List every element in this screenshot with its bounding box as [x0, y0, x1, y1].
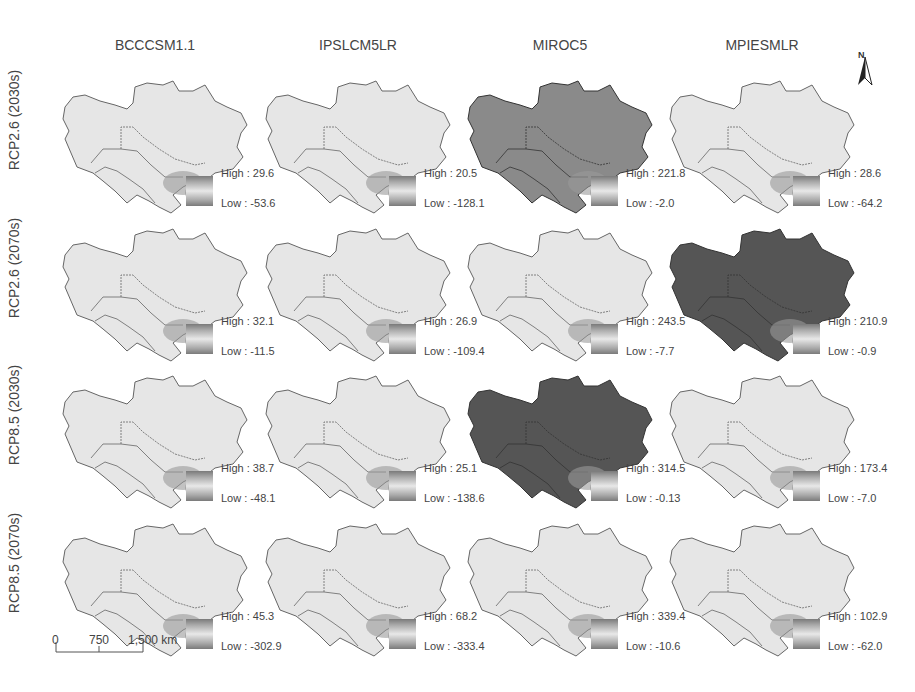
map-panel — [460, 498, 690, 658]
scale-label-750: 750 — [89, 633, 109, 647]
row-title: RCP8.5 (2070s) — [6, 488, 22, 638]
legend-color-ramp — [793, 471, 820, 501]
row-title: RCP8.5 (2030s) — [6, 340, 22, 490]
region-map — [258, 203, 458, 368]
map-panel — [258, 55, 488, 215]
region-map — [460, 203, 660, 368]
legend-color-ramp — [389, 176, 416, 206]
region-map — [258, 498, 458, 663]
legend-color-ramp — [793, 176, 820, 206]
column-title: IPSLCM5LR — [268, 37, 448, 53]
row-title: RCP2.6 (2070s) — [6, 193, 22, 343]
region-map — [258, 350, 458, 515]
legend-high-label: High : 210.9 — [828, 315, 887, 327]
map-panel — [460, 350, 690, 510]
region-map — [662, 55, 862, 220]
map-panel — [460, 203, 690, 363]
legend-high-label: High : 28.6 — [828, 167, 881, 179]
map-panel — [460, 55, 690, 215]
region-map — [662, 203, 862, 368]
legend-color-ramp — [591, 176, 618, 206]
map-panel — [258, 203, 488, 363]
map-panel — [258, 498, 488, 658]
legend-color-ramp — [186, 471, 213, 501]
north-label: N — [858, 50, 865, 60]
region-map — [662, 498, 862, 663]
legend-color-ramp — [591, 471, 618, 501]
map-panel — [662, 350, 892, 510]
map-panel — [55, 55, 285, 215]
map-panel — [55, 350, 285, 510]
legend-color-ramp — [389, 619, 416, 649]
column-title: MIROC5 — [470, 37, 650, 53]
legend-low-label: Low : -62.0 — [828, 640, 882, 652]
row-title: RCP2.6 (2030s) — [6, 45, 22, 195]
region-map — [55, 350, 255, 515]
scale-label-1500: 1,500 km — [128, 633, 177, 647]
scale-label-0: 0 — [52, 633, 59, 647]
map-panel — [662, 498, 892, 658]
map-panel — [258, 350, 488, 510]
region-map — [662, 350, 862, 515]
map-panel — [662, 203, 892, 363]
legend-color-ramp — [591, 619, 618, 649]
legend-color-ramp — [389, 471, 416, 501]
legend-color-ramp — [186, 176, 213, 206]
region-map — [258, 55, 458, 220]
region-map — [55, 203, 255, 368]
column-title: BCCCSM1.1 — [65, 37, 245, 53]
region-map — [460, 55, 660, 220]
column-title: MPIESMLR — [672, 37, 852, 53]
map-panel — [55, 203, 285, 363]
legend-high-label: High : 173.4 — [828, 462, 887, 474]
region-map — [460, 498, 660, 663]
region-map — [460, 350, 660, 515]
legend-high-label: High : 102.9 — [828, 610, 887, 622]
legend-color-ramp — [793, 619, 820, 649]
legend-color-ramp — [186, 619, 213, 649]
region-map — [55, 55, 255, 220]
